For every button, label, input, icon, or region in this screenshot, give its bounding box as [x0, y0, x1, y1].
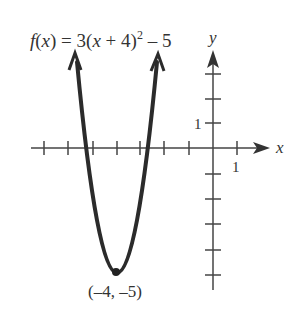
- vertex-point: [112, 268, 120, 276]
- y-axis-label: y: [207, 28, 217, 47]
- parabola-graph: f(x) = 3(x + 4)2 – 5 y x 1: [0, 0, 299, 315]
- y-tick-label: 1: [194, 116, 202, 132]
- y-axis: 1: [194, 50, 221, 290]
- curve-left-arrow-icon: [69, 53, 81, 70]
- x-tick-label: 1: [232, 159, 240, 175]
- x-axis: x 1: [31, 138, 284, 175]
- vertex-label: (–4, –5): [88, 282, 142, 301]
- x-axis-label: x: [275, 138, 284, 157]
- function-title: f(x) = 3(x + 4)2 – 5: [30, 28, 171, 52]
- parabola-curve: [77, 62, 157, 273]
